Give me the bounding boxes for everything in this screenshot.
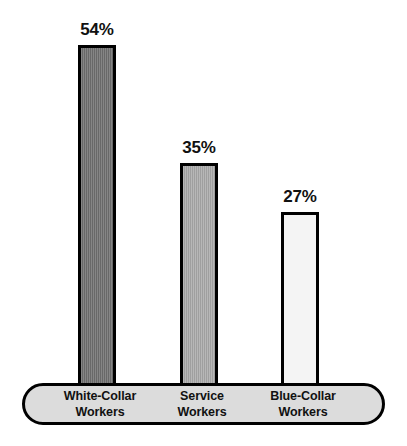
category-label-white-collar-workers: White-Collar Workers — [64, 388, 136, 420]
category-label-line1: White-Collar — [64, 389, 136, 403]
bar-group-white-collar-workers: 54% — [78, 45, 116, 386]
bar-white-collar-workers[interactable] — [78, 45, 116, 386]
bar-group-service-workers: 35% — [180, 163, 218, 386]
category-label-line2: Workers — [177, 404, 226, 420]
category-label-blue-collar-workers: Blue-Collar Workers — [270, 388, 336, 420]
category-axis-platform: White-Collar Workers Service Workers Blu… — [22, 383, 385, 425]
bar-group-blue-collar-workers: 27% — [281, 212, 319, 386]
bar-value-label-white-collar-workers: 54% — [80, 20, 113, 40]
bar-value-label-blue-collar-workers: 27% — [283, 187, 316, 207]
bar-chart: 54% 35% 27% White-Collar Workers Service… — [0, 0, 407, 446]
category-label-line1: Blue-Collar — [270, 389, 336, 403]
category-label-line1: Service — [180, 389, 224, 403]
category-label-service-workers: Service Workers — [177, 388, 226, 420]
category-label-line2: Workers — [270, 404, 336, 420]
category-label-line2: Workers — [64, 404, 136, 420]
bar-service-workers[interactable] — [180, 163, 218, 386]
chart-plot-area: 54% 35% 27% — [0, 0, 407, 386]
bar-blue-collar-workers[interactable] — [281, 212, 319, 386]
bar-value-label-service-workers: 35% — [182, 138, 215, 158]
